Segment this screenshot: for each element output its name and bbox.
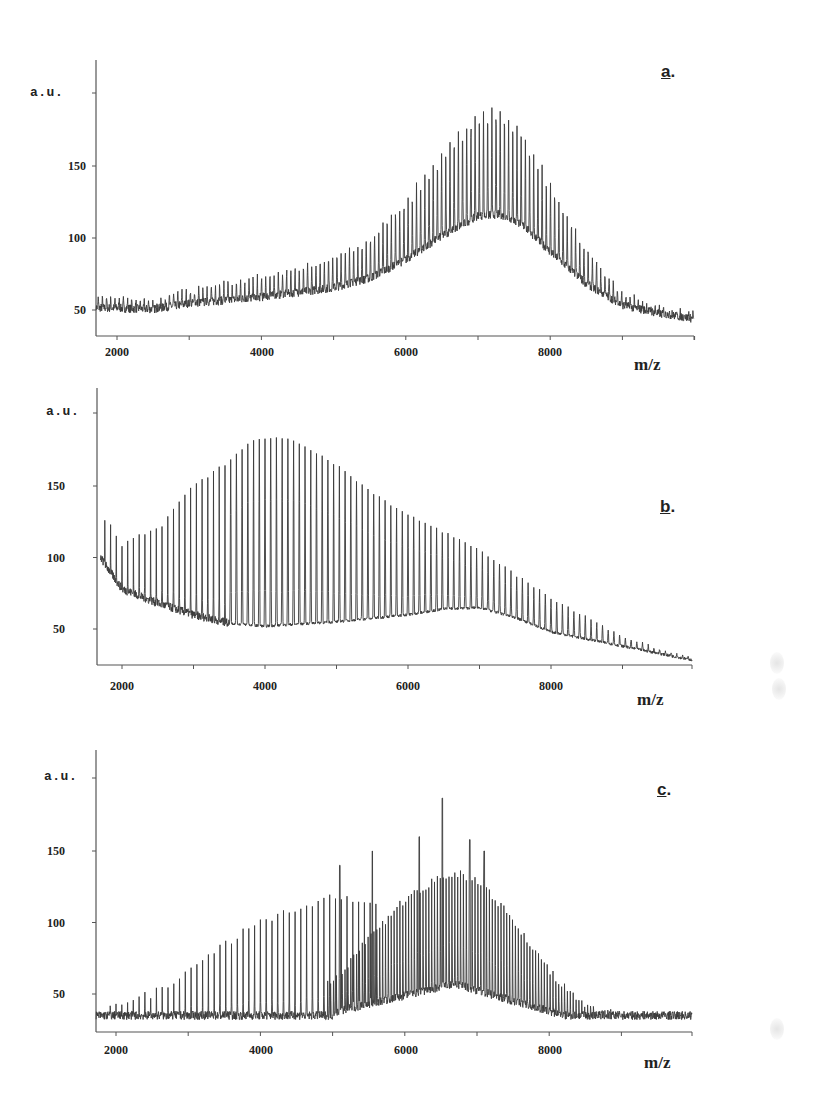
y-unit-label: a.u. [44, 769, 77, 784]
y-tick-label: 100 [35, 916, 65, 931]
spectrum-trace [96, 798, 692, 1020]
y-tick-label: 50 [35, 987, 65, 1002]
panel-label-c: c. [657, 780, 671, 800]
x-tick-label: 2000 [91, 1043, 141, 1058]
scan-artifact [772, 678, 786, 700]
x-axis-title: m/z [644, 1053, 670, 1073]
x-tick-label: 4000 [236, 1043, 286, 1058]
x-tick-label: 6000 [381, 1043, 431, 1058]
x-tick-label: 8000 [525, 1043, 575, 1058]
spectrum-plot-c [0, 0, 829, 1109]
scan-artifact [770, 1018, 784, 1040]
panel-c: a.u. 150 100 50 2000 4000 6000 8000 m/z … [0, 0, 829, 1109]
scan-artifact [770, 652, 784, 674]
y-tick-label: 150 [35, 844, 65, 859]
